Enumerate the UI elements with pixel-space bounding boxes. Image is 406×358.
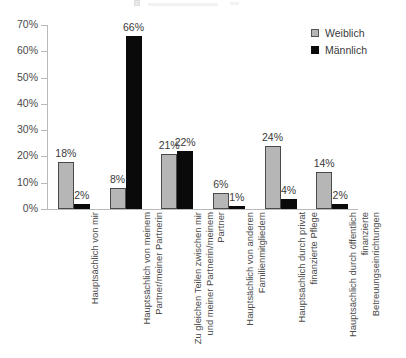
bar-value-label: 18% — [51, 147, 81, 159]
bar-maennlich[interactable] — [177, 151, 193, 209]
bar-weiblich[interactable] — [110, 188, 126, 209]
legend-item-weiblich[interactable]: Weiblich — [311, 24, 367, 41]
bar-chart: 0%10%20%30%40%50%60%70% 18%2%8%66%21%22%… — [0, 0, 406, 358]
legend-swatch-weiblich-icon — [311, 29, 319, 37]
chart-legend: Weiblich Männlich — [311, 24, 367, 58]
x-axis-category-label: Hauptsächlich durch privat finanzierte P… — [296, 212, 319, 356]
y-axis-tick-label: 50% — [0, 71, 38, 83]
clipped-legend-artifact — [118, 0, 246, 6]
bar-maennlich[interactable] — [229, 206, 245, 209]
y-axis-tick-label: 30% — [0, 123, 38, 135]
x-axis-category-label: Hauptsächlich von anderen Familienmitgli… — [244, 212, 267, 356]
bar-value-label: 1% — [222, 191, 252, 203]
legend-item-maennlich[interactable]: Männlich — [311, 41, 367, 58]
bar-weiblich[interactable] — [265, 146, 281, 209]
bar-maennlich[interactable] — [332, 204, 348, 209]
bar-value-label: 4% — [274, 184, 304, 196]
clipped-swatch-icon — [134, 0, 140, 6]
x-axis-category-label: Hauptsächlich durch öffentlich finanzier… — [347, 212, 382, 356]
y-axis-tick-label: 10% — [0, 176, 38, 188]
bar-value-label: 22% — [170, 136, 200, 148]
x-axis-category-labels: Hauptsächlich von mirHauptsächlich von m… — [47, 212, 358, 358]
clipped-text-line — [148, 3, 218, 6]
bar-value-label: 14% — [309, 157, 339, 169]
legend-swatch-maennlich-icon — [311, 46, 319, 54]
bar-value-label: 6% — [206, 178, 236, 190]
x-axis-line — [47, 209, 358, 210]
clipped-text-line-2 — [230, 2, 239, 5]
x-axis-category-label: Zu gleichen Teilen zwischen mir und mein… — [192, 212, 227, 356]
x-axis-category-label: Hauptsächlich von mir — [89, 212, 101, 356]
legend-label-maennlich: Männlich — [325, 44, 367, 56]
bar-weiblich[interactable] — [161, 154, 177, 209]
bar-maennlich[interactable] — [126, 36, 142, 209]
bar-value-label: 2% — [67, 189, 97, 201]
y-axis-tick-label: 20% — [0, 149, 38, 161]
legend-label-weiblich: Weiblich — [325, 27, 365, 39]
bar-maennlich[interactable] — [74, 204, 90, 209]
y-axis-tick-label: 70% — [0, 18, 38, 30]
bar-value-label: 24% — [258, 131, 288, 143]
bar-value-label: 66% — [119, 21, 149, 33]
y-axis-tick-label: 40% — [0, 97, 38, 109]
bar-value-label: 2% — [325, 189, 355, 201]
x-axis-category-label: Hauptsächlich von meinem Partner/meiner … — [141, 212, 164, 356]
bar-maennlich[interactable] — [281, 199, 297, 210]
y-axis-tick-label: 0% — [0, 202, 38, 214]
y-axis-tick — [41, 209, 47, 210]
y-axis-tick-label: 60% — [0, 44, 38, 56]
bar-weiblich[interactable] — [58, 162, 74, 209]
